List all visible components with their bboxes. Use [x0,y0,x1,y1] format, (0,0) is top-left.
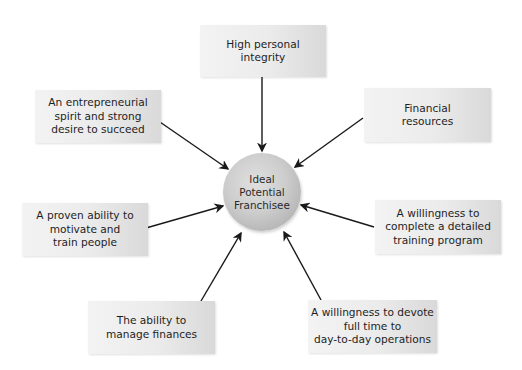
arrow-training [301,205,374,227]
center-node-ideal-franchisee: Ideal Potential Franchisee [223,153,301,231]
center-label: Ideal Potential Franchisee [234,173,290,212]
node-entrepreneurial-spirit: An entrepreneurial spirit and strong des… [35,90,161,143]
node-label: A proven ability to motivate and train p… [36,209,133,250]
node-label: A willingness to complete a detailed tra… [385,207,491,248]
node-training-program: A willingness to complete a detailed tra… [375,200,501,254]
node-financial-resources: Financial resources [364,88,491,142]
arrow-motivate [146,206,223,228]
node-motivate-train-people: A proven ability to motivate and train p… [22,203,148,256]
arrow-devote-time [284,232,321,300]
node-label: A willingness to devote full time to day… [311,306,434,347]
arrow-manage-finances [201,233,241,301]
node-devote-full-time: A willingness to devote full time to day… [308,300,437,353]
node-manage-finances: The ability to manage finances [88,301,215,354]
node-label: High personal integrity [226,38,299,65]
diagram-canvas: High personal integrity Financial resour… [0,0,522,370]
node-label: Financial resources [402,102,453,129]
node-label: The ability to manage finances [106,314,197,341]
arrow-financial-resources [295,118,363,167]
node-high-personal-integrity: High personal integrity [200,25,326,77]
arrow-entrepreneurial [157,120,228,169]
node-label: An entrepreneurial spirit and strong des… [48,96,147,137]
